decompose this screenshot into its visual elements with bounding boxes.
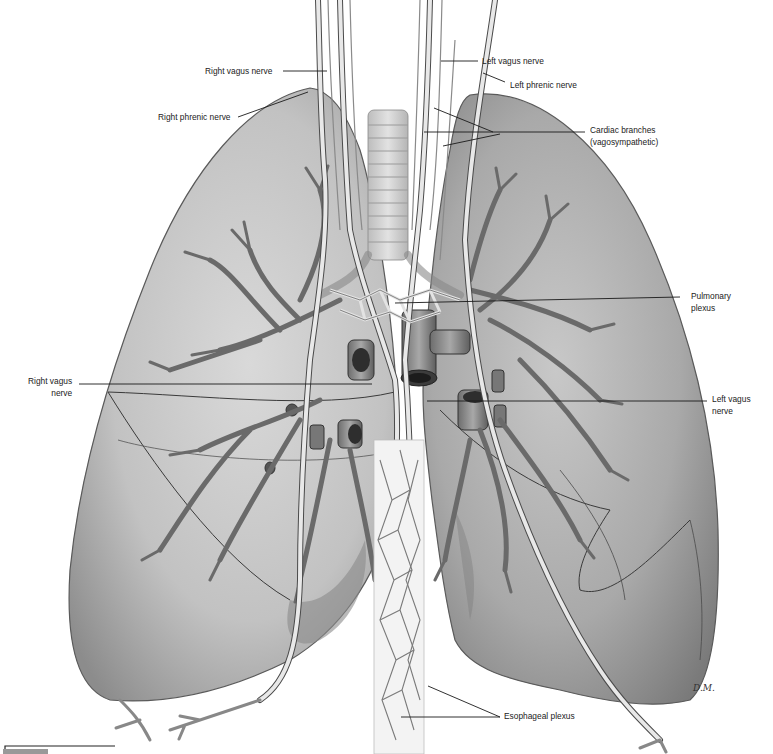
label-right-vagus-nerve-mid-line2: nerve (28, 387, 72, 399)
label-cardiac-branches-line1: Cardiac branches (590, 124, 658, 136)
label-left-vagus-nerve-mid-line1: Left vagus (712, 393, 751, 405)
lung-nerve-illustration (0, 0, 773, 754)
artist-signature: D.M. (693, 683, 715, 693)
label-right-vagus-nerve-mid-line1: Right vagus (28, 375, 72, 387)
label-right-vagus-nerve-mid: Right vagus nerve (28, 375, 72, 399)
label-pulmonary-plexus: Pulmonary plexus (691, 290, 731, 314)
label-left-vagus-nerve-top: Left vagus nerve (482, 55, 544, 67)
label-right-phrenic-nerve: Right phrenic nerve (158, 111, 231, 123)
label-right-vagus-nerve-top: Right vagus nerve (205, 65, 272, 77)
label-esophageal-plexus: Esophageal plexus (504, 710, 575, 722)
label-cardiac-branches: Cardiac branches (vagosympathetic) (590, 124, 658, 148)
corner-mark (3, 746, 115, 754)
label-pulmonary-plexus-line1: Pulmonary (691, 290, 731, 302)
label-left-phrenic-nerve: Left phrenic nerve (510, 79, 577, 91)
label-pulmonary-plexus-line2: plexus (691, 302, 731, 314)
label-cardiac-branches-line2: (vagosympathetic) (590, 136, 658, 148)
label-left-vagus-nerve-mid-line2: nerve (712, 405, 751, 417)
label-left-vagus-nerve-mid: Left vagus nerve (712, 393, 751, 417)
esophageal-plexus (374, 440, 424, 754)
